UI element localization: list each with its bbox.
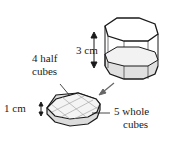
label-whole-cubes-1: 5 whole <box>114 106 149 117</box>
label-half-cubes-1: 4 half <box>32 53 57 64</box>
label-height-1cm: 1 cm <box>4 103 26 114</box>
height-arrow-1cm <box>39 102 43 116</box>
label-half-cubes-2: cubes <box>32 66 57 77</box>
pointer-arrow <box>99 83 114 95</box>
tall-prism <box>105 18 158 79</box>
label-whole-cubes-2: cubes <box>123 119 148 130</box>
slice-prism <box>47 93 100 126</box>
label-height-3cm: 3 cm <box>76 45 98 56</box>
